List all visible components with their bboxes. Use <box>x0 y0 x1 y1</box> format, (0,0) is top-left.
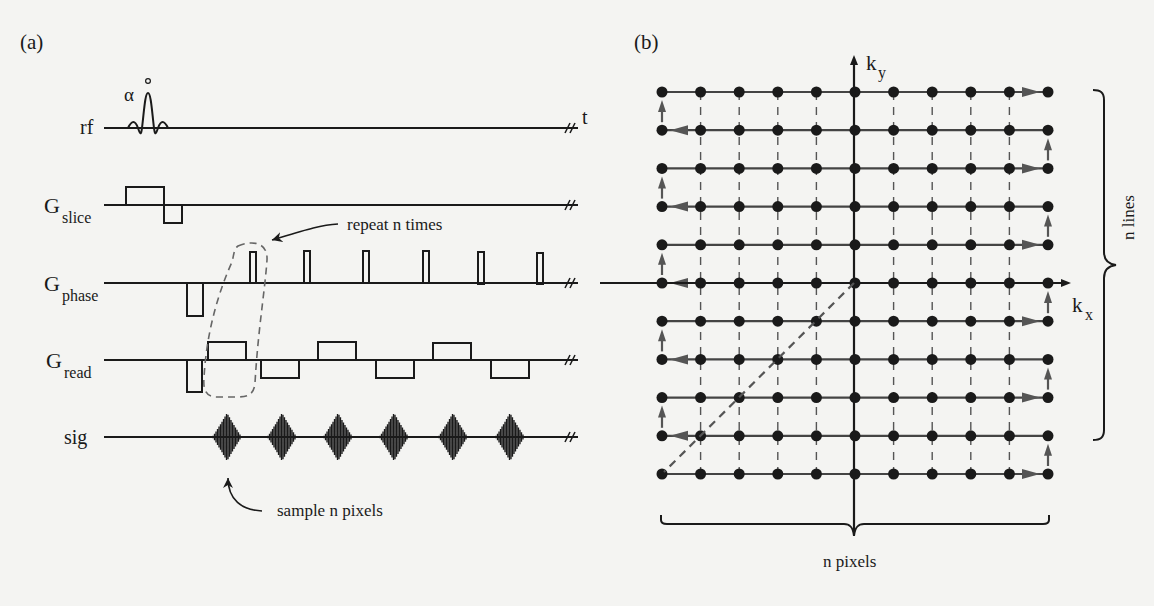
degree-symbol <box>146 79 151 84</box>
channel-rf: rf α t <box>80 79 588 138</box>
sample-point <box>965 469 976 480</box>
gphase-subscript: phase <box>62 287 98 305</box>
sample-point <box>965 430 976 441</box>
sample-point <box>695 163 706 174</box>
sample-point <box>1004 125 1015 136</box>
sample-point <box>888 239 899 250</box>
sample-point <box>1004 469 1015 480</box>
sample-point <box>1043 125 1054 136</box>
up-arrow-icon <box>658 406 666 418</box>
sample-point <box>772 239 783 250</box>
gread-subscript: read <box>64 364 92 381</box>
rf-label: rf <box>80 116 94 138</box>
read-dephase-lobe <box>187 360 202 392</box>
phase-prewinder-lobe <box>187 283 203 316</box>
sample-point <box>657 354 668 365</box>
echo <box>213 414 240 460</box>
sample-point <box>657 125 668 136</box>
sample-point <box>927 430 938 441</box>
slice-select-lobe <box>126 187 164 205</box>
right-arrow-icon <box>1022 316 1040 326</box>
sample-point <box>811 201 822 212</box>
sample-point <box>734 201 745 212</box>
sample-point <box>811 392 822 403</box>
sample-point <box>1043 469 1054 480</box>
sample-point <box>1004 316 1015 327</box>
flip-angle-label: α <box>124 84 134 105</box>
sample-point <box>772 163 783 174</box>
sample-point <box>772 430 783 441</box>
sample-point <box>1004 392 1015 403</box>
sample-point <box>772 87 783 98</box>
sample-point <box>965 239 976 250</box>
sample-point <box>1004 354 1015 365</box>
echo <box>324 414 351 460</box>
sample-point <box>927 125 938 136</box>
left-arrow-icon <box>670 354 688 364</box>
ky-subscript: y <box>878 64 886 82</box>
sample-point <box>734 125 745 136</box>
phase-blips <box>250 251 543 284</box>
repeat-arrow <box>272 224 338 240</box>
sample-point <box>965 125 976 136</box>
sample-point <box>811 430 822 441</box>
sample-point <box>965 201 976 212</box>
sample-point <box>811 239 822 250</box>
up-arrow-icon <box>1044 138 1052 150</box>
sample-point <box>657 469 668 480</box>
channel-gslice: G slice <box>44 187 578 226</box>
sample-point <box>1043 354 1054 365</box>
sample-point <box>888 163 899 174</box>
right-arrow-icon <box>1022 393 1040 403</box>
sample-point <box>965 316 976 327</box>
left-arrow-icon <box>670 125 688 135</box>
sample-point <box>1043 201 1054 212</box>
sample-point <box>695 87 706 98</box>
repeat-loop-outline <box>204 243 267 397</box>
sample-point <box>927 87 938 98</box>
slice-rephase-lobe <box>164 205 182 223</box>
sample-point <box>695 469 706 480</box>
sample-point <box>734 316 745 327</box>
sample-point <box>927 239 938 250</box>
sample-point <box>657 316 668 327</box>
right-arrow-icon <box>1022 469 1040 479</box>
up-arrow-icon <box>658 176 666 188</box>
sample-point <box>888 87 899 98</box>
sample-point <box>734 469 745 480</box>
gread-label: G <box>46 348 62 373</box>
kx-subscript: x <box>1085 306 1093 323</box>
sample-point <box>734 239 745 250</box>
sample-point <box>1004 430 1015 441</box>
sample-point <box>695 316 706 327</box>
kx-label: k <box>1072 293 1083 317</box>
sample-point <box>657 239 668 250</box>
panel-b-label: (b) <box>634 30 659 54</box>
sample-point <box>927 201 938 212</box>
sample-point <box>888 316 899 327</box>
sample-point <box>657 392 668 403</box>
sample-annotation: sample n pixels <box>277 501 383 520</box>
gslice-label: G <box>44 193 60 218</box>
sample-arrow <box>228 478 262 511</box>
panel-a: (a) rf α t G slice G phase <box>20 30 588 520</box>
sample-point <box>734 354 745 365</box>
sample-point <box>927 354 938 365</box>
sample-point <box>965 87 976 98</box>
sample-point <box>657 87 668 98</box>
sample-point <box>772 201 783 212</box>
n-pixels-label: n pixels <box>823 552 876 571</box>
sample-point <box>1043 430 1054 441</box>
gslice-subscript: slice <box>62 209 91 226</box>
sample-point <box>811 125 822 136</box>
up-arrow-icon <box>658 100 666 112</box>
right-arrow-icon <box>1022 240 1040 250</box>
left-arrow-icon <box>670 202 688 212</box>
sample-point <box>888 392 899 403</box>
sample-point <box>772 392 783 403</box>
sample-point <box>1004 163 1015 174</box>
sample-point <box>772 125 783 136</box>
up-arrow-icon <box>658 329 666 341</box>
sample-point <box>1004 239 1015 250</box>
sample-point <box>888 125 899 136</box>
